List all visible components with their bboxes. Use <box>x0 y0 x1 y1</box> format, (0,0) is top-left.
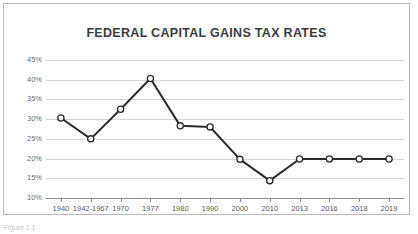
x-tick-label: 2000 <box>232 204 249 213</box>
y-tick-label: 30% <box>8 114 42 123</box>
x-axis-tick <box>270 198 271 202</box>
x-tick-label: 1970 <box>112 204 129 213</box>
x-tick-label: 2016 <box>321 204 338 213</box>
y-tick-label: 10% <box>8 193 42 202</box>
x-axis-tick <box>61 198 62 202</box>
gridline <box>46 119 404 120</box>
x-tick-label: 1942-1967 <box>73 204 109 213</box>
y-tick-label: 45% <box>8 55 42 64</box>
x-axis-tick <box>300 198 301 202</box>
x-axis-tick <box>121 198 122 202</box>
y-tick-label: 35% <box>8 94 42 103</box>
x-axis-tick <box>210 198 211 202</box>
gridline <box>46 139 404 140</box>
x-tick-label: 1980 <box>172 204 189 213</box>
x-tick-label: 2013 <box>291 204 308 213</box>
gridline <box>46 178 404 179</box>
y-tick-label: 20% <box>8 154 42 163</box>
figure-frame: FEDERAL CAPITAL GAINS TAX RATES 10%15%20… <box>3 3 410 215</box>
gridline <box>46 60 404 61</box>
x-axis-tick <box>180 198 181 202</box>
x-axis-tick <box>329 198 330 202</box>
x-tick-label: 2018 <box>351 204 368 213</box>
x-tick-label: 2019 <box>381 204 398 213</box>
x-axis-line <box>46 198 404 199</box>
x-axis-tick <box>150 198 151 202</box>
x-tick-label: 1990 <box>202 204 219 213</box>
plot-area <box>46 60 404 198</box>
figure-caption: Figure 1.1 <box>4 224 36 233</box>
gridline <box>46 99 404 100</box>
x-axis-tick <box>359 198 360 202</box>
x-tick-label: 1940 <box>53 204 70 213</box>
x-tick-label: 2010 <box>261 204 278 213</box>
x-axis-tick <box>91 198 92 202</box>
y-tick-label: 25% <box>8 134 42 143</box>
x-tick-label: 1977 <box>142 204 159 213</box>
chart-title: FEDERAL CAPITAL GAINS TAX RATES <box>4 26 409 40</box>
y-tick-label: 15% <box>8 173 42 182</box>
x-axis-tick <box>389 198 390 202</box>
gridline <box>46 159 404 160</box>
y-axis-labels: 10%15%20%25%30%35%40%45% <box>4 60 42 198</box>
gridline <box>46 80 404 81</box>
x-axis-tick <box>240 198 241 202</box>
y-tick-label: 40% <box>8 75 42 84</box>
